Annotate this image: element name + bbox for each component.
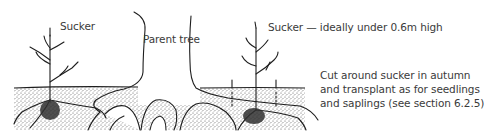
sucker-label-left: Sucker — [60, 21, 95, 32]
note-line-1: Cut around sucker in autumn — [320, 68, 484, 82]
parent-tree-label: Parent tree — [143, 34, 200, 45]
root-ball-right — [243, 108, 265, 124]
sucker-label-right: Sucker — ideally under 0.6m high — [268, 22, 443, 33]
root-ball-left — [40, 100, 60, 120]
note-line-2: and transplant as for seedlings — [320, 82, 484, 96]
transplant-note: Cut around sucker in autumn and transpla… — [320, 68, 484, 110]
note-line-3: and saplings (see section 6.2.5) — [320, 96, 484, 110]
